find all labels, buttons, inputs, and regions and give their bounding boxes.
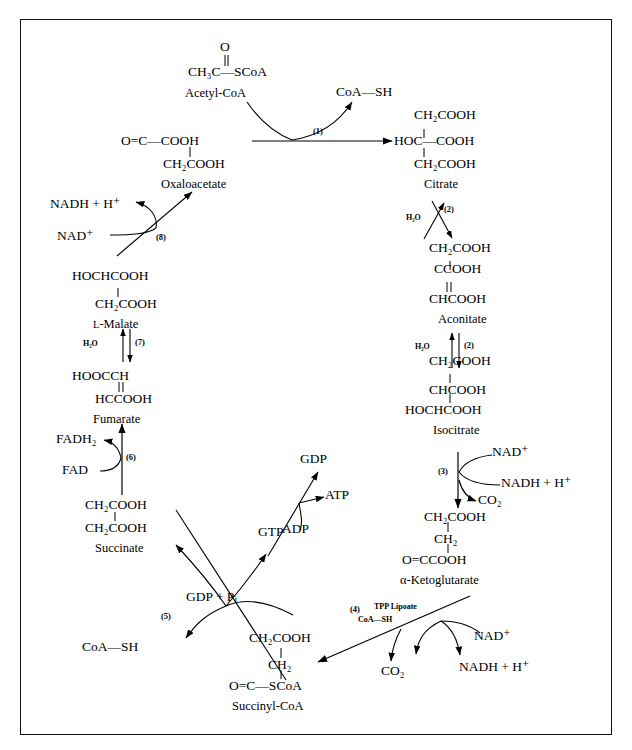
fumarate-name: Fumarate bbox=[93, 412, 140, 427]
alpha-ketoglutarate-line3: O=CCOOH bbox=[402, 553, 467, 567]
step-4-label: (4) bbox=[350, 604, 360, 614]
oxaloacetate-line2: CH₂COOH bbox=[163, 157, 225, 171]
nadh-step3-label: NADH + H⁺ bbox=[501, 474, 571, 491]
l-malate-line1: HOCHCOOH bbox=[72, 269, 149, 283]
gdp-label: GDP bbox=[300, 451, 327, 467]
citrate-name: Citrate bbox=[424, 177, 458, 192]
aconitate-name: Aconitate bbox=[438, 312, 487, 327]
gdp-pi-text: GDP + P bbox=[186, 589, 234, 604]
nadh-step4-label: NADH + H⁺ bbox=[459, 658, 529, 675]
step-2b-label: (2) bbox=[464, 340, 474, 350]
citric-acid-cycle-figure: O CH₃C—SCoA Acetyl-CoA CoA—SH (1) O=C—CO… bbox=[0, 0, 632, 750]
co2-step3-label: CO₂ bbox=[478, 492, 501, 508]
citrate-line2: HOC—COOH bbox=[394, 134, 474, 148]
succinate-line1: CH₂COOH bbox=[85, 498, 147, 512]
citrate-line3: CH₂COOH bbox=[414, 157, 476, 171]
l-malate-name-text: -Malate bbox=[99, 317, 138, 331]
fumarate-line1: HOOCCH bbox=[72, 369, 129, 383]
step-5-label: (5) bbox=[161, 611, 171, 621]
gdp-pi-label: GDP + Pi bbox=[186, 589, 237, 605]
succinyl-coa-line3: O=C—SCoA bbox=[229, 679, 302, 693]
aconitate-line1: CH₂COOH bbox=[429, 241, 491, 255]
water-step2a-label: H₂O bbox=[406, 213, 421, 222]
aconitate-line2: CCOOH bbox=[434, 262, 481, 276]
succinyl-coa-line1: CH₂COOH bbox=[249, 631, 311, 645]
alpha-ketoglutarate-line2: CH₂ bbox=[434, 532, 457, 546]
coash-top-label: CoA—SH bbox=[336, 84, 392, 100]
nad-step8-label: NAD⁺ bbox=[57, 227, 93, 244]
step-6-label: (6) bbox=[126, 452, 136, 462]
nad-step4-label: NAD⁺ bbox=[474, 627, 510, 644]
fad-label: FAD bbox=[62, 462, 88, 478]
step-7-label: (7) bbox=[135, 337, 145, 347]
alpha-ketoglutarate-line1: CH₂COOH bbox=[424, 510, 486, 524]
succinate-name: Succinate bbox=[95, 541, 144, 556]
l-malate-line2: CH₂COOH bbox=[95, 297, 157, 311]
water-step2b-label: H₂O bbox=[415, 342, 430, 351]
acetyl-coa-oxygen: O bbox=[220, 40, 230, 54]
acetyl-coa-formula: CH₃C—SCoA bbox=[188, 65, 267, 79]
tpp-lipoate-label: TPP Lipoate bbox=[374, 602, 417, 611]
nadh-step8-label: NADH + H⁺ bbox=[50, 195, 120, 212]
fumarate-line2: HCCOOH bbox=[95, 392, 152, 406]
gdp-pi-subscript: i bbox=[234, 594, 237, 605]
coash-step5-label: CoA—SH bbox=[82, 639, 138, 655]
succinyl-coa-name: Succinyl-CoA bbox=[232, 699, 304, 714]
adp-label: ADP bbox=[282, 521, 309, 537]
step-1-label: (1) bbox=[313, 126, 323, 136]
alpha-ketoglutarate-name: α-Ketoglutarate bbox=[400, 573, 479, 588]
succinyl-coa-line2: CH₂ bbox=[268, 658, 291, 672]
aconitate-line3: CHCOOH bbox=[429, 292, 486, 306]
atp-label: ATP bbox=[325, 487, 349, 503]
step-8-label: (8) bbox=[156, 232, 166, 242]
nad-step3-label: NAD⁺ bbox=[492, 443, 528, 460]
acetyl-coa-name: Acetyl-CoA bbox=[185, 86, 246, 101]
water-step7-label: H₂O bbox=[83, 339, 98, 348]
l-malate-name: L-Malate bbox=[93, 317, 138, 332]
gtp-label: GTP bbox=[258, 524, 284, 540]
co2-step4-label: CO₂ bbox=[381, 663, 404, 679]
succinate-line2: CH₂COOH bbox=[85, 521, 147, 535]
coash-step4-label: CoA—SH bbox=[358, 615, 392, 624]
isocitrate-line1: CH₂COOH bbox=[429, 354, 491, 368]
step-2a-label: (2) bbox=[444, 204, 454, 214]
citrate-line1: CH₂COOH bbox=[414, 108, 476, 122]
isocitrate-line2: CHCOOH bbox=[429, 383, 486, 397]
isocitrate-name: Isocitrate bbox=[433, 423, 480, 438]
step-3-label: (3) bbox=[438, 466, 448, 476]
isocitrate-line3: HOCHCOOH bbox=[405, 403, 482, 417]
oxaloacetate-name: Oxaloacetate bbox=[161, 177, 226, 192]
oxaloacetate-line1: O=C—COOH bbox=[121, 134, 199, 148]
fadh2-label: FADH₂ bbox=[56, 431, 96, 447]
